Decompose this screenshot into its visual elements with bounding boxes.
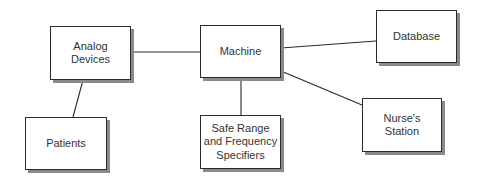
node-label: Patients bbox=[46, 137, 86, 151]
node-label: Database bbox=[393, 30, 440, 44]
node-label: Safe Range and Frequency Specifiers bbox=[204, 122, 277, 163]
node-patients: Patients bbox=[25, 117, 107, 170]
node-label: Analog Devices bbox=[71, 40, 110, 67]
node-database: Database bbox=[376, 10, 457, 63]
edge-analog-patients bbox=[73, 80, 83, 117]
node-safe-range-frequency-specifiers: Safe Range and Frequency Specifiers bbox=[200, 115, 281, 169]
node-nurses-station: Nurse's Station bbox=[362, 98, 442, 152]
edge-machine-database bbox=[281, 41, 376, 48]
node-machine: Machine bbox=[200, 25, 281, 78]
node-label: Machine bbox=[220, 45, 262, 59]
edge-machine-nurse bbox=[281, 71, 362, 105]
node-analog-devices: Analog Devices bbox=[50, 26, 131, 80]
node-label: Nurse's Station bbox=[384, 112, 421, 139]
